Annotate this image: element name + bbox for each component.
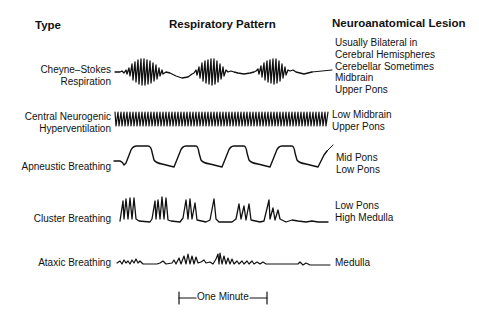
connector-lesion-apneustic	[327, 145, 333, 151]
waveform-ataxic	[117, 253, 330, 265]
waveform-central-neurogenic-hyperventilation	[115, 112, 328, 126]
waveform-cheyne-stokes	[115, 59, 312, 85]
respiratory-waveforms	[0, 0, 479, 322]
waveform-cluster	[120, 197, 328, 222]
connector-lesion-cheyne-stokes	[312, 70, 332, 72]
scale-bar-label: One Minute	[197, 291, 249, 302]
waveform-apneustic	[114, 146, 327, 167]
